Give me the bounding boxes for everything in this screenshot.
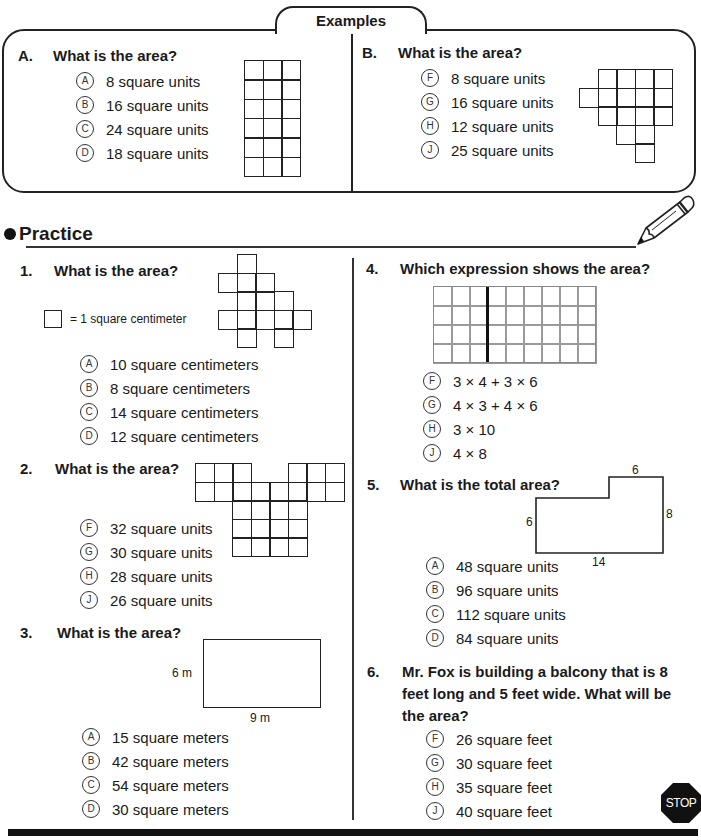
answer-bubble[interactable]: D <box>76 144 94 162</box>
grid-cell <box>292 310 312 330</box>
answer-bubble[interactable]: F <box>423 372 441 390</box>
answer-bubble[interactable]: B <box>82 752 100 770</box>
grid-cell <box>269 482 289 502</box>
q6-question-line-2: feet long and 5 feet wide. What will be <box>402 685 671 702</box>
grid-cell <box>255 310 275 330</box>
example-b-option-h[interactable]: H12 square units <box>421 115 554 137</box>
pencil-icon <box>632 192 696 250</box>
grid-cell <box>281 137 301 158</box>
example-a-number: A. <box>18 47 33 64</box>
q3-option-c[interactable]: C54 square meters <box>82 774 229 796</box>
q5-option-d[interactable]: D84 square units <box>426 627 559 649</box>
answer-bubble[interactable]: G <box>80 543 98 561</box>
q1-option-d[interactable]: D12 square centimeters <box>80 425 258 447</box>
answer-bubble[interactable]: H <box>426 778 444 796</box>
answer-bubble[interactable]: H <box>421 117 439 135</box>
grid-cell <box>269 519 289 539</box>
answer-bubble[interactable]: C <box>76 120 94 138</box>
answer-bubble[interactable]: F <box>426 730 444 748</box>
example-a-option-d[interactable]: D18 square units <box>76 142 209 164</box>
answer-bubble[interactable]: B <box>80 379 98 397</box>
q5-option-c[interactable]: C112 square units <box>426 603 566 625</box>
answer-bubble[interactable]: H <box>80 567 98 585</box>
q1-number: 1. <box>20 262 33 279</box>
example-a-option-c[interactable]: C24 square units <box>76 118 209 140</box>
q5-option-a[interactable]: A48 square units <box>426 555 559 577</box>
answer-bubble[interactable]: C <box>426 605 444 623</box>
q2-option-h[interactable]: H28 square units <box>80 565 213 587</box>
q5-l-shape-figure <box>530 470 670 560</box>
q2-option-g[interactable]: G30 square units <box>80 541 213 563</box>
q1-option-a[interactable]: A10 square centimeters <box>80 353 258 375</box>
answer-bubble[interactable]: H <box>423 420 441 438</box>
q6-option-g[interactable]: G30 square feet <box>426 752 552 774</box>
unit-square-icon <box>44 310 62 328</box>
q6-option-f[interactable]: F26 square feet <box>426 728 552 750</box>
answer-bubble[interactable]: D <box>82 800 100 818</box>
q4-question: Which expression shows the area? <box>400 260 650 277</box>
q2-option-j[interactable]: J26 square units <box>80 589 213 611</box>
answer-bubble[interactable]: F <box>80 519 98 537</box>
examples-tab: Examples <box>275 6 427 34</box>
answer-bubble[interactable]: A <box>80 355 98 373</box>
practice-rule <box>26 246 636 248</box>
grid-cell <box>281 157 301 178</box>
q5-option-b[interactable]: B96 square units <box>426 579 559 601</box>
q1-option-b[interactable]: B8 square centimeters <box>80 377 250 399</box>
example-b-option-j[interactable]: J25 square units <box>421 139 554 161</box>
q3-option-a[interactable]: A15 square meters <box>82 726 229 748</box>
grid-cell <box>288 500 308 520</box>
example-b-number: B. <box>362 44 377 61</box>
answer-bubble[interactable]: J <box>423 444 441 462</box>
q4-option-j[interactable]: J4 × 8 <box>423 442 487 464</box>
grid-cell <box>244 137 264 158</box>
q6-option-j[interactable]: J40 square feet <box>426 800 552 822</box>
answer-bubble[interactable]: F <box>421 69 439 87</box>
q6-question-line-1: Mr. Fox is building a balcony that is 8 <box>402 663 668 680</box>
q1-option-c[interactable]: C14 square centimeters <box>80 401 258 423</box>
q4-option-h[interactable]: H3 × 10 <box>423 418 495 440</box>
example-a-option-a[interactable]: A8 square units <box>76 70 200 92</box>
grid-cell <box>237 254 257 274</box>
grid-cell <box>244 118 264 139</box>
grid-cell <box>237 310 257 330</box>
q6-option-h[interactable]: H35 square feet <box>426 776 552 798</box>
examples-divider <box>351 30 353 191</box>
answer-bubble[interactable]: C <box>80 403 98 421</box>
answer-bubble[interactable]: G <box>421 93 439 111</box>
grid-cell <box>263 157 283 178</box>
answer-bubble[interactable]: A <box>76 72 94 90</box>
q4-option-f[interactable]: F3 × 4 + 3 × 6 <box>423 370 538 392</box>
answer-bubble[interactable]: J <box>426 802 444 820</box>
answer-bubble[interactable]: A <box>82 728 100 746</box>
grid-cell <box>251 500 271 520</box>
answer-bubble[interactable]: D <box>426 629 444 647</box>
grid-cell <box>274 291 294 311</box>
answer-bubble[interactable]: B <box>426 581 444 599</box>
answer-bubble[interactable]: C <box>82 776 100 794</box>
grid-cell <box>232 537 252 557</box>
grid-cell <box>214 463 234 483</box>
answer-bubble[interactable]: J <box>80 591 98 609</box>
answer-bubble[interactable]: G <box>426 754 444 772</box>
q1-question: What is the area? <box>54 262 178 279</box>
example-a-option-b[interactable]: B16 square units <box>76 94 209 116</box>
answer-bubble[interactable]: B <box>76 96 94 114</box>
grid-cell <box>325 463 345 483</box>
q4-option-g[interactable]: G4 × 3 + 4 × 6 <box>423 394 538 416</box>
example-b-option-g[interactable]: G16 square units <box>421 91 554 113</box>
q5-bottom-label: 14 <box>592 555 605 569</box>
answer-bubble[interactable]: J <box>421 141 439 159</box>
q2-option-f[interactable]: F32 square units <box>80 517 213 539</box>
grid-cell <box>251 482 271 502</box>
grid-cell <box>306 482 326 502</box>
q3-option-b[interactable]: B42 square meters <box>82 750 229 772</box>
example-b-option-f[interactable]: F8 square units <box>421 67 545 89</box>
grid-cell <box>281 118 301 139</box>
grid-cell <box>269 500 289 520</box>
q3-option-d[interactable]: D30 square meters <box>82 798 229 820</box>
answer-bubble[interactable]: A <box>426 557 444 575</box>
answer-bubble[interactable]: G <box>423 396 441 414</box>
answer-bubble[interactable]: D <box>80 427 98 445</box>
grid-cell <box>635 88 655 108</box>
